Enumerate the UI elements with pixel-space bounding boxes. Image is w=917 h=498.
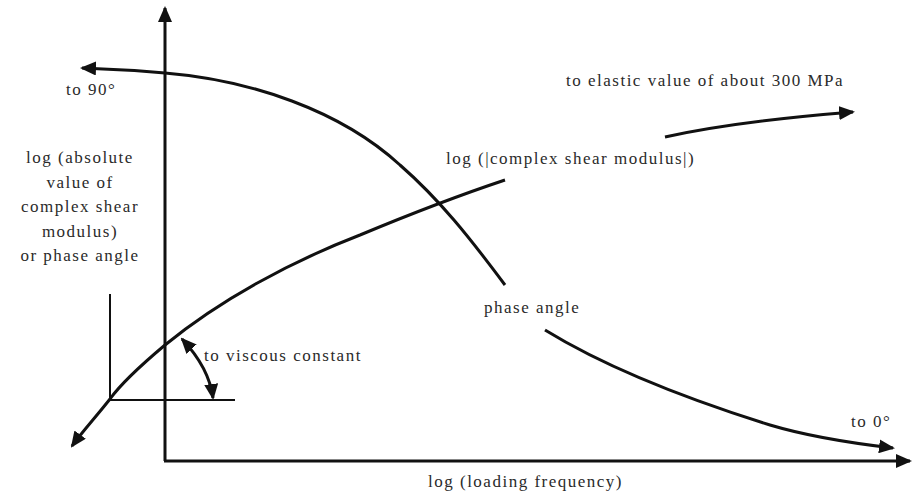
modulus-curve-label: log (|complex shear modulus|) <box>446 148 695 169</box>
diagram-canvas: log (absolute value of complex shear mod… <box>0 0 917 498</box>
y-axis-label-line-5: or phase angle <box>4 244 156 269</box>
y-axis-label-line-3: complex shear <box>4 195 156 220</box>
y-axis-label: log (absolute value of complex shear mod… <box>4 146 156 269</box>
y-axis-label-line-1: log (absolute <box>4 146 156 171</box>
modulus-low-freq-annotation: to viscous constant <box>204 345 362 366</box>
phase-angle-label: phase angle <box>484 297 580 318</box>
phase-angle-high-freq-annotation: to 0° <box>851 411 891 432</box>
y-axis-label-line-4: modulus) <box>4 220 156 245</box>
phase-angle-curve <box>82 68 893 448</box>
modulus-high-freq-annotation: to elastic value of about 300 MPa <box>566 70 844 91</box>
x-axis-label: log (loading frequency) <box>428 471 623 492</box>
phase-angle-low-freq-annotation: to 90° <box>66 79 116 100</box>
y-axis-label-line-2: value of <box>4 171 156 196</box>
